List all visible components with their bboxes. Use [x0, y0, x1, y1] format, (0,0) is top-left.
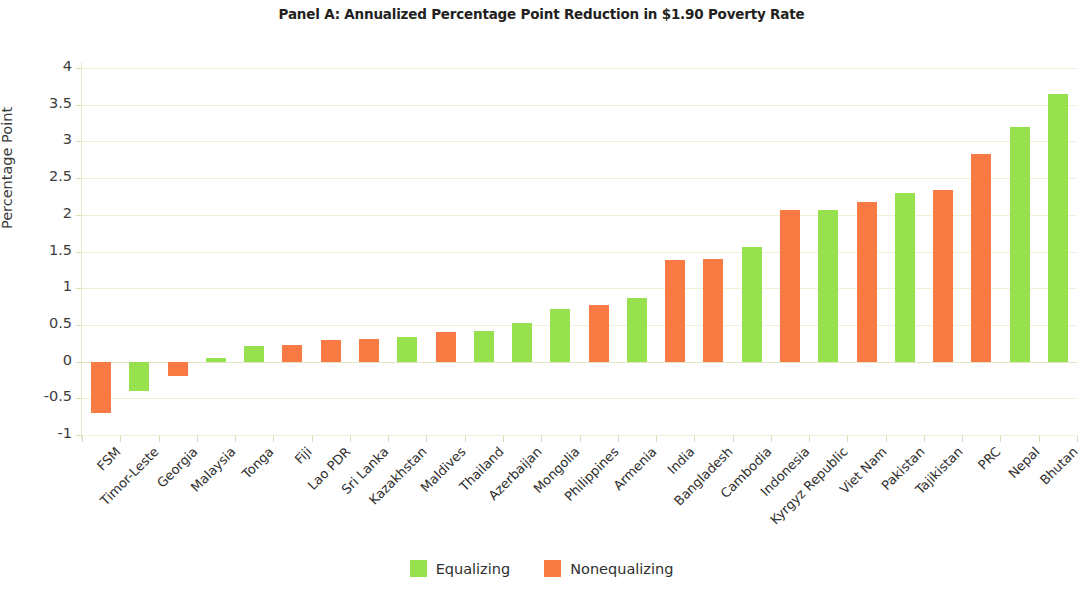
x-axis-tick-mark: [82, 436, 83, 442]
bar: [818, 210, 838, 362]
bar: [1010, 127, 1030, 362]
y-axis-tick-label: 0.5: [18, 315, 72, 331]
gridline: [82, 105, 1077, 106]
x-axis-tick-mark: [962, 436, 963, 442]
legend-label: Nonequalizing: [570, 561, 673, 577]
x-axis-tick-mark: [847, 436, 848, 442]
x-axis-tick-mark: [886, 436, 887, 442]
legend-item: Nonequalizing: [544, 560, 673, 577]
x-axis-tick-mark: [618, 436, 619, 442]
bar: [589, 305, 609, 362]
gridline: [82, 178, 1077, 179]
x-axis-tick-mark: [580, 436, 581, 442]
x-axis-tick-mark: [465, 436, 466, 442]
legend-swatch-icon: [544, 560, 561, 577]
plot-area: [82, 68, 1077, 435]
x-axis-tick-mark: [426, 436, 427, 442]
y-axis-tick-label: 3.5: [18, 95, 72, 111]
x-axis-tick-mark: [350, 436, 351, 442]
legend-item: Equalizing: [410, 560, 511, 577]
chart-title: Panel A: Annualized Percentage Point Red…: [0, 6, 1083, 22]
x-axis-tick-mark: [235, 436, 236, 442]
gridline: [82, 288, 1077, 289]
x-axis-tick-mark: [1000, 436, 1001, 442]
gridline: [82, 325, 1077, 326]
x-axis-tick-mark: [120, 436, 121, 442]
chart-legend: EqualizingNonequalizing: [0, 560, 1083, 577]
y-axis-title: Percentage Point: [0, 18, 15, 318]
x-axis-tick-mark: [503, 436, 504, 442]
y-axis-tick-label: 0: [18, 352, 72, 368]
bar: [857, 202, 877, 362]
gridline: [82, 68, 1077, 69]
bar: [168, 362, 188, 377]
y-axis-tick-label: 2: [18, 205, 72, 221]
bar: [206, 358, 226, 362]
y-axis-tick-label: 3: [18, 131, 72, 147]
bar: [397, 337, 417, 361]
bar: [91, 362, 111, 413]
bar: [512, 323, 532, 362]
bar: [474, 331, 494, 362]
x-axis-tick-mark: [771, 436, 772, 442]
legend-label: Equalizing: [436, 561, 511, 577]
gridline: [82, 398, 1077, 399]
bar: [550, 309, 570, 362]
bar: [933, 190, 953, 362]
gridline: [82, 362, 1077, 363]
x-axis-tick-mark: [1077, 436, 1078, 442]
x-axis-tick-mark: [388, 436, 389, 442]
y-axis-tick-label: 2.5: [18, 168, 72, 184]
x-axis-tick-mark: [924, 436, 925, 442]
x-axis-tick-mark: [733, 436, 734, 442]
bar: [665, 260, 685, 362]
x-axis-tick-mark: [159, 436, 160, 442]
bar: [129, 362, 149, 391]
x-axis-tick-mark: [273, 436, 274, 442]
gridline: [82, 141, 1077, 142]
legend-swatch-icon: [410, 560, 427, 577]
x-axis-tick-mark: [656, 436, 657, 442]
bar: [282, 345, 302, 362]
x-axis-tick-mark: [197, 436, 198, 442]
bar: [627, 298, 647, 362]
bar: [436, 332, 456, 361]
bar: [321, 340, 341, 362]
bar: [244, 346, 264, 361]
gridline: [82, 215, 1077, 216]
y-axis-tick-label: -0.5: [18, 388, 72, 404]
bar: [780, 210, 800, 361]
gridline: [82, 252, 1077, 253]
x-axis-tick-mark: [1039, 436, 1040, 442]
x-axis-tick-mark: [541, 436, 542, 442]
bar: [359, 339, 379, 362]
bar: [1048, 94, 1068, 362]
bar: [703, 259, 723, 362]
y-axis-tick-label: 1.5: [18, 242, 72, 258]
bar: [742, 247, 762, 362]
x-axis-tick-mark: [809, 436, 810, 442]
bar: [971, 154, 991, 362]
bar: [895, 193, 915, 362]
y-axis-tick-label: -1: [18, 425, 72, 441]
chart-panel-a: Panel A: Annualized Percentage Point Red…: [0, 0, 1083, 594]
y-axis-tick-label: 4: [18, 58, 72, 74]
y-axis-tick-label: 1: [18, 278, 72, 294]
x-axis-tick-mark: [694, 436, 695, 442]
x-axis-tick-mark: [312, 436, 313, 442]
